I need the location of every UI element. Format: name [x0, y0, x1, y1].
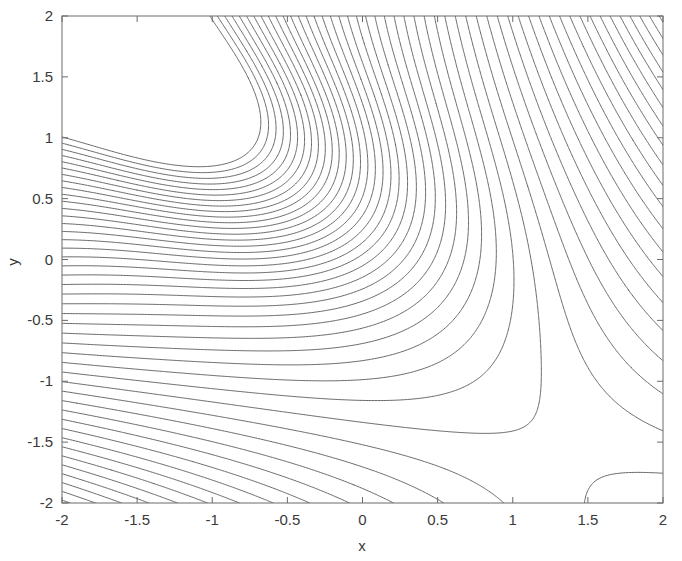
- y-tick-label: 1.5: [32, 68, 53, 85]
- x-tick-label: -2: [55, 511, 68, 528]
- x-tick-label: -0.5: [274, 511, 300, 528]
- contour-plot-figure: -2-1.5-1-0.500.511.52 -2-1.5-1-0.500.511…: [0, 0, 682, 561]
- y-tick-label: -1: [40, 372, 53, 389]
- x-tick-label: 0.5: [427, 511, 448, 528]
- x-tick-label: 1.5: [577, 511, 598, 528]
- figure-canvas: -2-1.5-1-0.500.511.52 -2-1.5-1-0.500.511…: [0, 0, 682, 561]
- y-axis-title: y: [4, 258, 21, 266]
- x-tick-label: 1: [509, 511, 517, 528]
- y-tick-label: -2: [40, 494, 53, 511]
- y-tick-label: 2: [45, 7, 53, 24]
- y-tick-label: 0: [45, 251, 53, 268]
- x-tick-label: -1: [206, 511, 219, 528]
- x-tick-label: 2: [659, 511, 667, 528]
- x-tick-label: -1.5: [124, 511, 150, 528]
- y-tick-label: -0.5: [27, 311, 53, 328]
- y-tick-label: 1: [45, 129, 53, 146]
- x-tick-label: 0: [358, 511, 366, 528]
- y-tick-label: -1.5: [27, 433, 53, 450]
- y-tick-label: 0.5: [32, 190, 53, 207]
- x-axis-title: x: [358, 537, 366, 554]
